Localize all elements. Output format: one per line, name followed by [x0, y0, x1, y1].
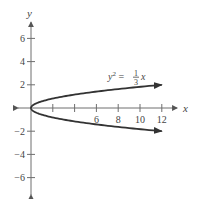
y-tick-label: 6	[20, 33, 25, 44]
y-tick-label: 4	[20, 56, 25, 67]
equation-lhs: y2 =	[107, 70, 124, 82]
x-tick-label: 12	[157, 114, 167, 125]
equation-annotation: y2 = 1 3 x	[107, 69, 146, 87]
y-tick-label: 2	[20, 79, 25, 90]
x-axis-label: x	[182, 102, 188, 114]
equation-fraction-numerator: 1	[134, 69, 138, 78]
y-axis-label: y	[26, 7, 32, 19]
equation-rhs: x	[140, 71, 146, 82]
x-tick-label: 8	[116, 114, 121, 125]
chart: 681012 −6−4−2246 x y y2 = 1 3 x	[0, 0, 198, 199]
y-tick-label: −6	[14, 172, 25, 183]
equation-fraction-denominator: 3	[134, 78, 138, 87]
x-tick-label: 10	[135, 114, 145, 125]
y-tick-label: −2	[14, 126, 25, 137]
y-tick-label: −4	[14, 149, 25, 160]
